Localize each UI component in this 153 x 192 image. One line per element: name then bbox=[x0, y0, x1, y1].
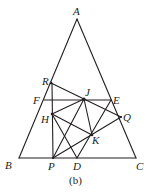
label-c: C bbox=[136, 160, 144, 172]
label-h: H bbox=[40, 113, 50, 125]
point-labels: A B C R F H J E Q K P D bbox=[5, 5, 144, 172]
triangle-abc bbox=[19, 19, 136, 158]
label-d: D bbox=[72, 160, 81, 172]
segment-ab bbox=[19, 19, 77, 158]
geometry-diagram: A B C R F H J E Q K P D (b) bbox=[0, 0, 153, 192]
point-r bbox=[50, 82, 53, 85]
label-k: K bbox=[91, 134, 100, 146]
point-p bbox=[52, 157, 54, 159]
segment-hj bbox=[52, 99, 84, 114]
label-r: R bbox=[41, 75, 49, 87]
segment-jk bbox=[84, 99, 92, 135]
label-e: E bbox=[112, 94, 120, 106]
label-a: A bbox=[72, 5, 80, 17]
label-f: F bbox=[32, 94, 40, 106]
segment-de bbox=[77, 100, 111, 158]
figure-caption: (b) bbox=[69, 174, 82, 187]
segment-rp bbox=[52, 83, 53, 158]
label-b: B bbox=[5, 159, 12, 171]
point-q bbox=[120, 116, 122, 118]
label-p: P bbox=[47, 160, 55, 172]
point-h bbox=[51, 113, 54, 116]
label-j: J bbox=[85, 86, 91, 98]
label-q: Q bbox=[123, 111, 131, 123]
